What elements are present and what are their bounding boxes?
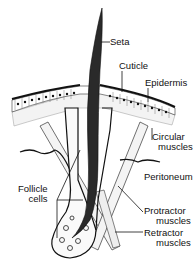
retractor-muscle — [90, 122, 148, 250]
label-circular-muscles: Circular muscles — [152, 132, 193, 152]
label-circular-line2: muscles — [152, 142, 193, 152]
label-epidermis: Epidermis — [145, 78, 187, 88]
label-seta: Seta — [110, 37, 130, 47]
label-retractor-muscles: Retractor muscles — [144, 228, 191, 248]
label-peritoneum: Peritoneum — [144, 172, 193, 182]
label-retractor-line2: muscles — [144, 238, 191, 248]
label-protractor-muscles: Protractor muscles — [144, 206, 191, 226]
label-protractor-line2: muscles — [144, 216, 191, 226]
label-follicle-line2: cells — [18, 194, 48, 204]
label-cuticle: Cuticle — [119, 61, 148, 71]
label-follicle-cells: Follicle cells — [18, 184, 48, 204]
